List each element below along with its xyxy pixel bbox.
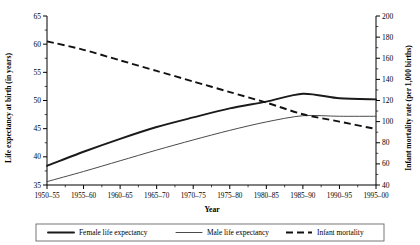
left-axis-title: Life expectancy at birth (in years) bbox=[4, 53, 13, 163]
legend-label-1: Female life expectancy bbox=[79, 228, 148, 237]
right-axis-tick-label: 80 bbox=[382, 138, 390, 147]
x-axis-tick-label: 1995–00 bbox=[363, 192, 389, 200]
series-line-male-life-expectancy bbox=[47, 115, 376, 181]
legend-label-2: Male life expectancy bbox=[207, 228, 269, 237]
right-axis-tick-label: 160 bbox=[382, 54, 394, 63]
chart-legend: Female life expectancyMale life expectan… bbox=[36, 224, 384, 241]
x-axis-tick-label: 1960–65 bbox=[108, 192, 134, 200]
left-axis-tick-label: 55 bbox=[34, 68, 42, 77]
data-series-group bbox=[47, 41, 376, 181]
left-axis-tick-label: 40 bbox=[34, 152, 42, 161]
x-axis-tick-label: 1965–70 bbox=[144, 192, 170, 200]
x-axis-tick-label: 1980–85 bbox=[254, 192, 280, 200]
life-expectancy-infant-mortality-chart: 35404550556065 406080100120140160180200 … bbox=[0, 0, 420, 245]
x-axis: 1950–551955–601960–651965–701970–751975–… bbox=[34, 185, 389, 200]
x-axis-tick-label: 1990–95 bbox=[327, 192, 353, 200]
x-axis-tick-label: 1955–60 bbox=[71, 192, 97, 200]
left-axis-tick-label: 65 bbox=[34, 12, 42, 21]
right-axis-tick-label: 200 bbox=[382, 12, 394, 21]
right-axis-tick-label: 40 bbox=[382, 181, 390, 190]
left-axis-tick-label: 50 bbox=[34, 96, 42, 105]
right-axis-tick-label: 100 bbox=[382, 117, 394, 126]
left-axis-tick-label: 35 bbox=[34, 181, 42, 190]
right-axis-tick-label: 60 bbox=[382, 159, 390, 168]
series-line-female-life-expectancy bbox=[47, 94, 376, 166]
left-axis-tick-label: 60 bbox=[34, 40, 42, 49]
legend-label-3: Infant mortality bbox=[317, 228, 364, 237]
left-axis-tick-label: 45 bbox=[34, 124, 42, 133]
x-axis-tick-label: 1985–90 bbox=[290, 192, 316, 200]
right-axis-tick-label: 140 bbox=[382, 75, 394, 84]
x-axis-tick-label: 1950–55 bbox=[34, 192, 60, 200]
x-axis-title: Year bbox=[204, 205, 220, 214]
chart-container: 35404550556065 406080100120140160180200 … bbox=[0, 0, 420, 245]
x-axis-tick-label: 1970–75 bbox=[181, 192, 207, 200]
left-y-axis: 35404550556065 bbox=[34, 12, 48, 190]
right-y-axis: 406080100120140160180200 bbox=[376, 12, 394, 190]
right-axis-tick-label: 180 bbox=[382, 33, 394, 42]
x-axis-tick-label: 1975–80 bbox=[217, 192, 243, 200]
right-axis-tick-label: 120 bbox=[382, 96, 394, 105]
right-axis-title: Infant mortality rate (per 1,000 births) bbox=[404, 45, 413, 171]
